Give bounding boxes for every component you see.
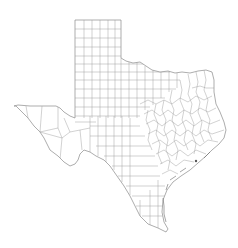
map-canvas [0,0,238,248]
city-marker [195,160,197,162]
texas-county-map [0,0,238,248]
